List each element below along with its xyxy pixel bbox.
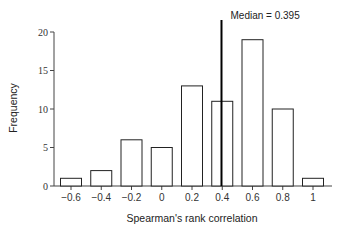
histogram-bar [242, 40, 263, 186]
histogram-bar [272, 109, 293, 186]
y-tick-label: 10 [38, 104, 48, 115]
histogram-bar [91, 171, 112, 186]
x-tick-label: −0.6 [61, 192, 81, 203]
y-tick-label: 5 [43, 142, 48, 153]
y-tick-label: 0 [43, 181, 48, 192]
histogram-bar [121, 140, 142, 186]
y-axis: 05101520 [38, 27, 54, 192]
y-tick-label: 20 [38, 27, 48, 38]
x-tick-label: 0.8 [276, 192, 290, 203]
x-tick-label: −0.2 [122, 192, 142, 203]
histogram-bar [303, 178, 324, 186]
y-tick-label: 15 [38, 65, 48, 76]
median-label: Median = 0.395 [230, 10, 300, 21]
x-tick-label: 0 [159, 192, 165, 203]
histogram-bar [61, 178, 82, 186]
x-tick-label: 1 [310, 192, 316, 203]
x-tick-label: −0.4 [91, 192, 111, 203]
x-tick-label: 0.6 [246, 192, 260, 203]
histogram-bar [182, 86, 203, 186]
histogram-bar [151, 148, 172, 187]
x-axis: −0.6−0.4−0.200.20.40.60.81 [54, 186, 332, 203]
y-axis-label: Frequency [7, 82, 19, 132]
bars [61, 40, 324, 186]
x-tick-label: 0.2 [185, 192, 199, 203]
histogram-chart: 05101520 −0.6−0.4−0.200.20.40.60.81 Medi… [0, 0, 341, 236]
x-tick-label: 0.4 [215, 192, 229, 203]
x-axis-label: Spearman's rank correlation [127, 212, 258, 224]
